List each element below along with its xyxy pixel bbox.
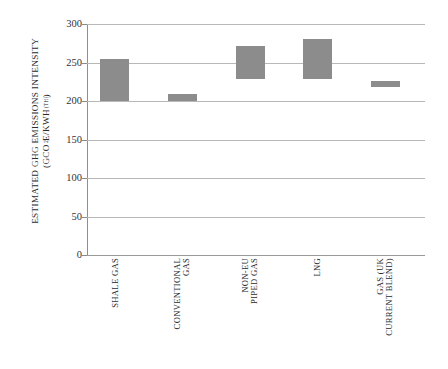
y-tick-label-100: 100 bbox=[48, 173, 82, 184]
gridline-300 bbox=[87, 24, 425, 25]
gridline-200 bbox=[87, 101, 425, 102]
x-category-label-2: NON-EUPIPED GAS bbox=[227, 258, 273, 366]
x-category-label-0: SHALE GAS bbox=[92, 258, 138, 366]
x-category-line: LNG bbox=[313, 258, 322, 277]
x-category-label-1: CONVENTIONALGAS bbox=[159, 258, 205, 366]
bar-1 bbox=[168, 94, 197, 101]
tickmark-250 bbox=[82, 63, 87, 64]
tickmark-0 bbox=[82, 255, 87, 256]
y-tick-label-0: 0 bbox=[48, 250, 82, 261]
x-category-line: GAS bbox=[182, 258, 191, 276]
y-tick-label-300: 300 bbox=[48, 19, 82, 30]
bar-2 bbox=[236, 46, 265, 80]
bar-0 bbox=[100, 59, 129, 101]
y-tick-label-50: 50 bbox=[48, 211, 82, 222]
x-category-label-3: LNG bbox=[295, 258, 341, 366]
tickmark-50 bbox=[82, 217, 87, 218]
tickmark-300 bbox=[82, 24, 87, 25]
bar-3 bbox=[303, 39, 332, 79]
x-category-line: SHALE GAS bbox=[111, 258, 120, 308]
y-axis-tick-labels: 050100150200250300 bbox=[44, 0, 82, 369]
x-category-line: PIPED GAS bbox=[250, 258, 259, 304]
bar-4 bbox=[371, 81, 400, 87]
y-tick-label-250: 250 bbox=[48, 57, 82, 68]
y-tick-label-200: 200 bbox=[48, 96, 82, 107]
gridline-100 bbox=[87, 178, 425, 179]
ghg-emissions-intensity-chart: ESTIMATED GHG EMISSIONS INTENSITY (GCO2E… bbox=[0, 0, 448, 369]
y-axis-title-line1: ESTIMATED GHG EMISSIONS INTENSITY bbox=[31, 38, 40, 224]
x-category-line: CURRENT BLEND) bbox=[385, 258, 394, 336]
tickmark-100 bbox=[82, 178, 87, 179]
gridline-0 bbox=[87, 255, 425, 256]
gridline-50 bbox=[87, 217, 425, 218]
tickmark-200 bbox=[82, 101, 87, 102]
gridline-150 bbox=[87, 140, 425, 141]
x-axis-category-labels: SHALE GASCONVENTIONALGASNON-EUPIPED GASL… bbox=[87, 258, 425, 369]
plot-area bbox=[87, 24, 425, 255]
x-category-label-4: GAS (UKCURRENT BLEND) bbox=[362, 258, 408, 366]
tickmark-150 bbox=[82, 140, 87, 141]
y-tick-label-150: 150 bbox=[48, 134, 82, 145]
